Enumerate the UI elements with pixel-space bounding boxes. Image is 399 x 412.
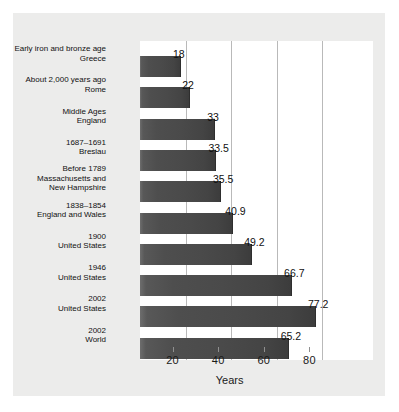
tickmark-20 [173,347,174,352]
bar-chart-figure: 20406080 Years 18Early iron and bronze a… [0,0,399,412]
bar-value-label: 35.5 [213,173,233,185]
x-tick-label-80: 80 [289,354,329,366]
bar-value-label: 33.5 [208,142,228,154]
plot-area [140,41,373,360]
bar-value-label: 49.2 [244,236,264,248]
category-label: Early iron and bronze age Greece [0,44,106,63]
x-tick-label-40: 40 [198,354,238,366]
x-tick-label-60: 60 [244,354,284,366]
chart-panel: 20406080 Years 18Early iron and bronze a… [13,13,385,396]
category-label: 1946 United States [0,263,106,282]
bar-value-label: 33 [207,111,219,123]
bar [140,244,252,265]
bar [140,119,215,140]
category-label: 1687–1691 Breslau [0,138,106,157]
category-label: Middle Ages England [0,107,106,126]
bar [140,181,221,202]
bar [140,213,233,234]
bar-value-label: 22 [182,79,194,91]
bar-value-label: 66.7 [284,267,304,279]
bar-value-label: 65.2 [281,330,301,342]
category-label: Before 1789 Massachusetts and New Hampsh… [0,164,106,193]
category-label: 1838–1854 England and Wales [0,201,106,220]
bar-value-label: 40.9 [225,205,245,217]
x-axis-title: Years [127,374,332,386]
bar [140,275,292,296]
category-label: 1900 United States [0,232,106,251]
tickmark-80 [309,347,310,352]
bar [140,306,316,327]
bar-value-label: 77.2 [308,298,328,310]
category-label: About 2,000 years ago Rome [0,75,106,94]
x-tick-label-20: 20 [153,354,193,366]
bar [140,150,216,171]
gridline-80 [322,41,323,360]
bar-value-label: 18 [173,48,185,60]
category-label: 2002 World [0,326,106,345]
tickmark-40 [218,347,219,352]
category-label: 2002 United States [0,294,106,313]
tickmark-60 [264,347,265,352]
